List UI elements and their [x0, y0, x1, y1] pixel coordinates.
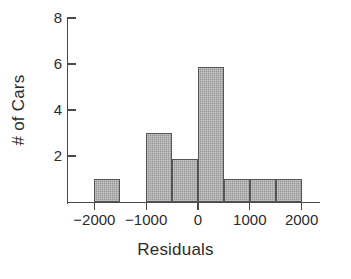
y-tick-2: [67, 155, 76, 156]
histogram-bar: [146, 133, 172, 202]
y-tick-4: [67, 109, 76, 110]
histogram-bar: [94, 179, 120, 202]
x-tick-label-2000: 2000: [272, 212, 332, 227]
x-axis-line: [67, 202, 320, 203]
histogram-figure: 2468 −2000−1000010002000 # of Cars Resid…: [0, 0, 351, 279]
histogram-bar: [172, 159, 198, 202]
y-tick-label-8: 8: [42, 10, 62, 25]
x-tick-2000: [301, 202, 302, 210]
x-tick--1000: [146, 202, 147, 210]
histogram-bar: [224, 179, 250, 202]
x-tick-1000: [249, 202, 250, 210]
y-tick-8: [67, 17, 76, 18]
y-tick-label-2: 2: [42, 148, 62, 163]
y-tick-6: [67, 63, 76, 64]
y-tick-label-4: 4: [42, 102, 62, 117]
histogram-bar: [276, 179, 302, 202]
x-tick-0: [197, 202, 198, 210]
y-tick-label-6: 6: [42, 56, 62, 71]
y-axis-title: # of Cars: [9, 55, 29, 165]
histogram-bar: [198, 67, 224, 202]
x-tick--2000: [94, 202, 95, 210]
histogram-bar: [250, 179, 276, 202]
x-axis-title: Residuals: [0, 240, 351, 260]
